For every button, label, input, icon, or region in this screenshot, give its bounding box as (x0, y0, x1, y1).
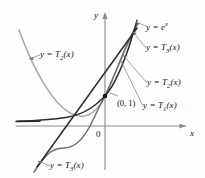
point-0-1-marker (103, 94, 108, 99)
curve-label-t1-right: y = T1(x) (143, 101, 177, 112)
curve-label-t3-right-lead: y = (146, 42, 161, 52)
curve-label-t3-bottom-lead: y = (50, 160, 65, 170)
origin-label: 0 (96, 130, 101, 139)
leader-point (110, 93, 118, 96)
taylor-polynomials-figure: y x 0 (0, 1) y = ex y = T3(x) y = T2(x) … (0, 0, 205, 178)
curve-label-t1-right-lead: y = (143, 100, 158, 110)
curve-label-t2-right: y = T2(x) (147, 78, 181, 89)
leader-lines-right (110, 22, 147, 106)
curve-label-exp-superscript: x (165, 20, 168, 27)
curve-label-t2-left: y = T2(x) (40, 50, 74, 61)
curve-label-exp-lead: y = (146, 22, 161, 32)
x-axis-label: x (190, 129, 194, 138)
y-axis-label: y (94, 11, 98, 20)
curve-label-t3-right: y = T3(x) (146, 43, 180, 54)
curve-label-t1-right-tail: (x) (166, 100, 176, 110)
curve-label-exp: y = ex (146, 21, 168, 32)
curve-label-t3-right-tail: (x) (169, 42, 179, 52)
curve-label-t3-bottom-tail: (x) (73, 160, 83, 170)
x-axis (16, 123, 186, 128)
curve-label-t2-right-tail: (x) (170, 77, 180, 87)
point-0-1-label: (0, 1) (117, 99, 135, 108)
curve-label-t2-right-lead: y = (147, 77, 162, 87)
curve-label-t3-bottom: y = T3(x) (50, 161, 84, 172)
curve-label-t2-left-lead: y = (40, 49, 55, 59)
leader-t2-right (123, 55, 147, 83)
curve-label-t2-left-tail: (x) (63, 49, 73, 59)
